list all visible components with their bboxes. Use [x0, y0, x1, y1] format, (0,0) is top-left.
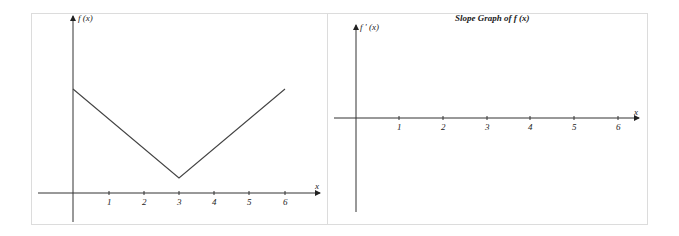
left-tick-label: 2 — [142, 197, 147, 207]
left-chart: f (x) x 1 2 3 4 5 6 — [38, 13, 320, 222]
left-tick-label: 1 — [107, 197, 112, 207]
left-tick-label: 4 — [212, 197, 217, 207]
charts-canvas: f (x) x 1 2 3 4 5 6 Slope Graph of f (x)… — [0, 0, 679, 236]
right-tick-label: 3 — [484, 122, 490, 132]
f-of-x-line — [73, 89, 285, 178]
right-tick-label: 1 — [397, 122, 402, 132]
left-tick-label: 5 — [247, 197, 252, 207]
left-y-axis-label: f (x) — [78, 13, 93, 23]
right-tick-label: 6 — [616, 122, 621, 132]
right-tick-label: 5 — [572, 122, 577, 132]
right-y-axis-label: f ' (x) — [360, 22, 379, 32]
right-tick-label: 2 — [441, 122, 446, 132]
right-x-axis-label: x — [633, 107, 638, 117]
right-tick-label: 4 — [528, 122, 533, 132]
left-x-axis-label: x — [314, 181, 319, 191]
slope-graph-title: Slope Graph of f (x) — [455, 13, 530, 23]
right-chart: Slope Graph of f (x) f ' (x) x 1 2 3 4 5… — [334, 13, 639, 212]
left-tick-label: 3 — [176, 197, 182, 207]
left-tick-label: 6 — [283, 197, 288, 207]
